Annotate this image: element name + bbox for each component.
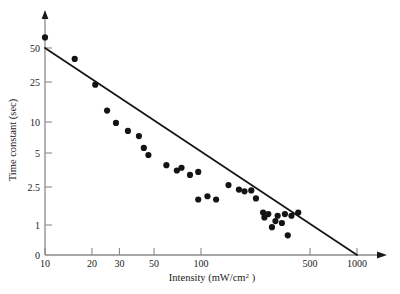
- data-point: [104, 107, 110, 113]
- data-point: [136, 133, 142, 139]
- y-tick-label-1: 1: [35, 220, 40, 231]
- data-point: [92, 82, 98, 88]
- data-point: [275, 213, 281, 219]
- data-point: [248, 187, 254, 193]
- data-point: [225, 182, 231, 188]
- data-point: [285, 232, 291, 238]
- data-point: [253, 195, 259, 201]
- y-tick-label-2-5: 2.5: [28, 182, 41, 193]
- x-tick-label-1000: 1000: [347, 258, 367, 269]
- x-axis-arrow-icon: [377, 251, 387, 258]
- data-point: [282, 211, 288, 217]
- data-point: [145, 152, 151, 158]
- regression-line: [45, 48, 357, 255]
- x-tick-label-50: 50: [149, 258, 159, 269]
- y-axis-title: Time constant (sec): [7, 98, 19, 181]
- data-point: [163, 162, 169, 168]
- x-axis-ticks: 102030501005001000: [40, 248, 367, 269]
- data-point: [272, 218, 278, 224]
- figure-container: 50251052.510 102030501005001000 Intensit…: [0, 0, 400, 294]
- x-tick-label-20: 20: [87, 258, 97, 269]
- data-point: [213, 196, 219, 202]
- y-tick-label-25: 25: [30, 77, 40, 88]
- x-tick-label-10: 10: [40, 258, 50, 269]
- data-point: [295, 209, 301, 215]
- scatter-plot: 50251052.510 102030501005001000 Intensit…: [0, 0, 400, 294]
- x-tick-label-30: 30: [114, 258, 124, 269]
- data-point: [195, 169, 201, 175]
- x-axis-title: Intensity (mW/cm2 ): [169, 272, 256, 285]
- data-point: [241, 188, 247, 194]
- data-point: [178, 165, 184, 171]
- data-point: [125, 128, 131, 134]
- y-tick-label-50: 50: [30, 43, 40, 54]
- data-point: [42, 34, 48, 40]
- data-point: [141, 145, 147, 151]
- data-point: [288, 213, 294, 219]
- data-point: [187, 172, 193, 178]
- data-point: [279, 220, 285, 226]
- y-tick-label-10: 10: [30, 117, 40, 128]
- x-tick-label-500: 500: [303, 258, 318, 269]
- data-point: [72, 56, 78, 62]
- data-point: [236, 186, 242, 192]
- data-point: [269, 224, 275, 230]
- x-tick-label-100: 100: [194, 258, 209, 269]
- y-axis-arrow-icon: [42, 10, 49, 19]
- data-point: [204, 193, 210, 199]
- data-point-group: [42, 34, 301, 238]
- data-point: [265, 211, 271, 217]
- data-point: [195, 196, 201, 202]
- y-axis-ticks: 50251052.510: [28, 43, 53, 261]
- y-tick-label-5: 5: [35, 148, 40, 159]
- data-point: [113, 120, 119, 126]
